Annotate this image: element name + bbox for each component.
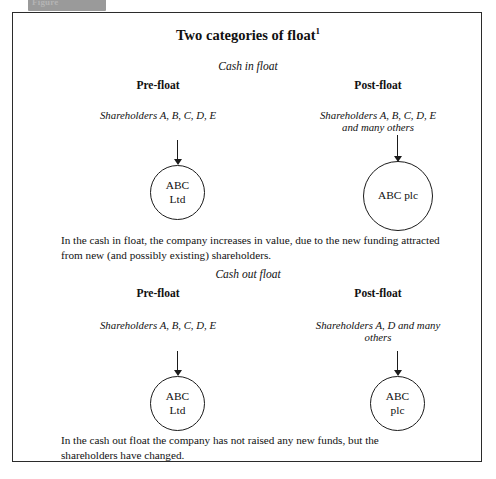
- cash-out-float-caption-line1: In the cash out float the company has no…: [61, 433, 441, 448]
- cash-in-pre-float-shareholders: Shareholders A, B, C, D, E: [58, 109, 258, 121]
- cash-in-post-float-shareholders-line2: and many others: [278, 121, 478, 133]
- cash-out-float-caption: In the cash out float the company has no…: [61, 433, 441, 462]
- cash-out-float-caption-line2: shareholders have changed.: [61, 448, 441, 463]
- section-label-cash-out-float: Cash out float: [13, 268, 483, 281]
- cash-in-pre-float-heading: Pre-float: [73, 79, 243, 92]
- cash-out-post-float-heading: Post-float: [293, 287, 463, 300]
- cash-in-pre-float-entity-line2: Ltd: [170, 193, 186, 205]
- figure-title-footnote: 1: [315, 26, 320, 36]
- cash-out-pre-float-entity-line2: Ltd: [170, 404, 186, 416]
- cash-out-pre-float-shareholders: Shareholders A, B, C, D, E: [58, 319, 258, 331]
- cash-out-pre-float-entity-label: ABC Ltd: [166, 390, 189, 416]
- cash-in-post-float-shareholders: Shareholders A, B, C, D, E and many othe…: [278, 109, 478, 134]
- cash-out-post-float-entity-circle: ABC plc: [370, 376, 425, 431]
- cash-in-pre-float-entity-line1: ABC: [166, 179, 189, 191]
- cash-out-post-float-arrow-icon: [392, 351, 403, 377]
- cash-out-post-float-shareholders-line1: Shareholders A, D and many: [278, 319, 478, 331]
- cash-in-pre-float-arrow-icon: [172, 140, 183, 166]
- cash-out-post-float-shareholders-line2: others: [278, 331, 478, 343]
- cash-in-post-float-heading: Post-float: [293, 79, 463, 92]
- cash-in-post-float-shareholders-line1: Shareholders A, B, C, D, E: [278, 109, 478, 121]
- cash-out-post-float-shareholders: Shareholders A, D and many others: [278, 319, 478, 344]
- cash-in-float-caption-line2: from new (and possibly existing) shareho…: [61, 248, 441, 263]
- figure-title-text: Two categories of float: [176, 27, 315, 43]
- cash-out-pre-float-heading: Pre-float: [73, 287, 243, 300]
- cash-in-float-caption: In the cash in float, the company increa…: [61, 233, 441, 262]
- cash-out-pre-float-entity-line1: ABC: [166, 390, 189, 402]
- cash-out-post-float-entity-line2: plc: [391, 404, 405, 416]
- figure-frame: Two categories of float1 Cash in float P…: [12, 12, 482, 462]
- cash-in-post-float-entity-circle: ABC plc: [363, 161, 433, 231]
- cash-in-pre-float-entity-label: ABC Ltd: [166, 179, 189, 205]
- cash-out-post-float-entity-label: ABC plc: [386, 390, 409, 416]
- cash-in-post-float-arrow-icon: [392, 135, 403, 163]
- figure-label-text: Figure: [32, 0, 59, 7]
- figure-title: Two categories of float1: [13, 27, 483, 43]
- cash-in-post-float-entity-label: ABC plc: [378, 189, 418, 202]
- cash-out-pre-float-arrow-icon: [172, 351, 183, 377]
- cash-in-float-caption-line1: In the cash in float, the company increa…: [61, 233, 441, 248]
- cash-out-post-float-entity-line1: ABC: [386, 390, 409, 402]
- figure-label-tab: Figure: [28, 0, 106, 11]
- cash-in-pre-float-entity-circle: ABC Ltd: [150, 165, 205, 220]
- cash-out-pre-float-entity-circle: ABC Ltd: [150, 376, 205, 431]
- section-label-cash-in-float: Cash in float: [13, 60, 483, 73]
